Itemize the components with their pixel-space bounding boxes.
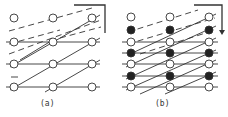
panel-b — [122, 5, 225, 94]
node — [49, 60, 57, 68]
node — [166, 13, 174, 21]
node-filled — [127, 49, 135, 57]
node — [49, 14, 57, 22]
node — [205, 13, 213, 21]
node — [166, 83, 174, 91]
node — [88, 60, 96, 68]
node-filled — [205, 72, 213, 80]
node-filled — [166, 26, 174, 34]
node — [205, 83, 213, 91]
node — [127, 38, 135, 46]
node — [49, 38, 57, 46]
node-filled — [205, 49, 213, 57]
panel-a — [6, 5, 105, 92]
node — [10, 60, 18, 68]
node — [10, 38, 18, 46]
node-filled — [127, 72, 135, 80]
panel-a-caption: (a) — [40, 99, 54, 108]
node — [88, 83, 96, 91]
node-filled — [205, 26, 213, 34]
node — [127, 13, 135, 21]
node — [88, 38, 96, 46]
node — [127, 83, 135, 91]
node-filled — [127, 26, 135, 34]
node — [88, 14, 96, 22]
node — [49, 83, 57, 91]
node — [166, 38, 174, 46]
node — [10, 83, 18, 91]
node — [127, 60, 135, 68]
node — [166, 60, 174, 68]
node — [205, 60, 213, 68]
node — [205, 38, 213, 46]
nodes — [10, 14, 96, 91]
arrow-head-icon — [219, 30, 225, 35]
lattice-figure — [0, 0, 228, 117]
node — [10, 14, 18, 22]
node-filled — [166, 72, 174, 80]
panel-b-caption: (b) — [155, 99, 169, 108]
node-filled — [166, 49, 174, 57]
